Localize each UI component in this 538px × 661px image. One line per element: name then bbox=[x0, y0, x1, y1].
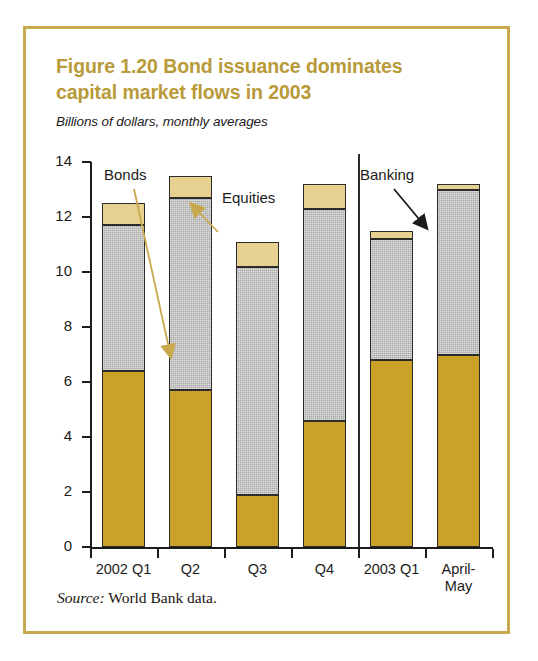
x-axis-label-q4: Q4 bbox=[291, 561, 358, 578]
bar-segment-equities bbox=[236, 242, 279, 267]
bar-q4 bbox=[303, 162, 346, 547]
x-tick-1 bbox=[224, 549, 226, 558]
source-label: Source: bbox=[57, 589, 105, 606]
y-tick-8 bbox=[82, 326, 91, 328]
x-axis-label-2003-q1: 2003 Q1 bbox=[358, 561, 425, 578]
x-axis-label-q3: Q3 bbox=[224, 561, 291, 578]
x-tick-3 bbox=[358, 549, 360, 558]
bar-segment-bonds bbox=[303, 421, 346, 548]
bar-segment-equities bbox=[370, 231, 413, 239]
source-note: Source: World Bank data. bbox=[57, 589, 217, 607]
y-tick-label-8: 8 bbox=[26, 317, 72, 334]
bar-2002-q1 bbox=[102, 162, 145, 547]
x-axis-label-april-may: April-May bbox=[425, 561, 492, 595]
chart-plot-area: 02468101214 2002 Q1Q2Q3Q42003 Q1April-Ma… bbox=[26, 29, 513, 637]
bar-segment-banking bbox=[370, 239, 413, 360]
y-tick-label-10: 10 bbox=[26, 262, 72, 279]
figure-frame: Figure 1.20 Bond issuance dominates capi… bbox=[23, 26, 510, 634]
y-tick-label-12: 12 bbox=[26, 207, 72, 224]
bar-segment-bonds bbox=[437, 355, 480, 548]
x-tick-4 bbox=[425, 549, 427, 558]
bar-segment-bonds bbox=[102, 371, 145, 547]
y-tick-10 bbox=[82, 271, 91, 273]
x-tick-2 bbox=[291, 549, 293, 558]
bar-segment-equities bbox=[169, 176, 212, 198]
bar-april-may bbox=[437, 162, 480, 547]
y-tick-label-4: 4 bbox=[26, 427, 72, 444]
bar-segment-bonds bbox=[236, 495, 279, 547]
annotation-label-equities: Equities bbox=[222, 189, 275, 206]
bar-q2 bbox=[169, 162, 212, 547]
y-tick-2 bbox=[82, 491, 91, 493]
bar-2003-q1 bbox=[370, 162, 413, 547]
bar-segment-banking bbox=[169, 198, 212, 391]
x-tick-0 bbox=[157, 549, 159, 558]
y-tick-label-14: 14 bbox=[26, 152, 72, 169]
annotation-label-banking: Banking bbox=[360, 166, 414, 183]
x-axis-label-2002-q1: 2002 Q1 bbox=[90, 561, 157, 578]
bar-segment-equities bbox=[102, 203, 145, 225]
bar-segment-bonds bbox=[370, 360, 413, 547]
y-tick-label-0: 0 bbox=[26, 537, 72, 554]
source-text: World Bank data. bbox=[108, 589, 217, 606]
annotation-label-bonds: Bonds bbox=[104, 166, 147, 183]
y-tick-label-6: 6 bbox=[26, 372, 72, 389]
x-axis-label-q2: Q2 bbox=[157, 561, 224, 578]
y-tick-12 bbox=[82, 216, 91, 218]
x-tick-origin bbox=[90, 549, 92, 558]
bar-segment-banking bbox=[236, 267, 279, 495]
y-tick-label-2: 2 bbox=[26, 482, 72, 499]
bar-segment-equities bbox=[303, 184, 346, 209]
y-tick-14 bbox=[82, 161, 91, 163]
bar-q3 bbox=[236, 162, 279, 547]
y-tick-6 bbox=[82, 381, 91, 383]
period-separator-line bbox=[358, 154, 360, 547]
bar-segment-banking bbox=[437, 190, 480, 355]
y-tick-4 bbox=[82, 436, 91, 438]
bar-segment-bonds bbox=[169, 390, 212, 547]
bar-segment-equities bbox=[437, 184, 480, 190]
y-tick-0 bbox=[82, 546, 91, 548]
bar-segment-banking bbox=[102, 225, 145, 371]
bar-segment-banking bbox=[303, 209, 346, 421]
x-tick-5 bbox=[492, 549, 494, 558]
